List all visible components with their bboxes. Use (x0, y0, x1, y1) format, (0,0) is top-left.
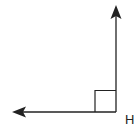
right-angle-diagram: H (0, 0, 139, 131)
right-angle-marker (95, 91, 116, 113)
vertex-label: H (125, 112, 134, 127)
ray-up (111, 5, 122, 112)
ray-left (12, 107, 116, 118)
